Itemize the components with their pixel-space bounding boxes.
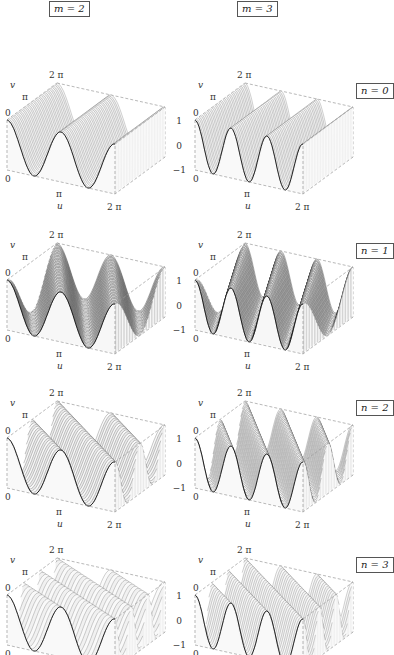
u-tick-0: 0: [193, 492, 199, 502]
z-tick-neg1: −1: [173, 483, 186, 493]
u-tick-0: 0: [193, 334, 199, 344]
surface-plot-n1-m3: 10−10π2 πv0π2 πu: [188, 190, 358, 340]
surface-plot-n3-m3: 10−10π2 πv0π2 πu: [188, 505, 358, 655]
surface-mesh: [195, 243, 353, 354]
v-tick-pi: π: [22, 92, 28, 102]
v-tick-0: 0: [5, 268, 11, 278]
v-tick-0: 0: [193, 108, 199, 118]
surface-plot-n0-m2: 10−10π2 πv0π2 πu: [0, 30, 170, 180]
v-axis-label: v: [198, 80, 203, 90]
column-label-m3: m = 3: [237, 1, 278, 17]
surface-mesh: [7, 243, 165, 354]
z-tick-1: 1: [176, 434, 182, 444]
surface-plot-n3-m2: 10−10π2 πv0π2 πu: [0, 505, 170, 655]
v-tick-pi: π: [22, 567, 28, 577]
v-tick-pi: π: [210, 252, 216, 262]
surface-mesh: [195, 83, 353, 194]
v-tick-2pi: 2 π: [237, 545, 252, 555]
v-tick-pi: π: [22, 252, 28, 262]
u-tick-0: 0: [5, 334, 11, 344]
surface-mesh: [195, 558, 353, 655]
z-tick-0: 0: [176, 141, 182, 151]
z-tick-1: 1: [176, 591, 182, 601]
u-tick-0: 0: [5, 649, 11, 655]
v-tick-2pi: 2 π: [49, 545, 64, 555]
surface-plot-n2-m3: 10−10π2 πv0π2 πu: [188, 348, 358, 498]
z-tick-0: 0: [176, 616, 182, 626]
v-tick-pi: π: [22, 410, 28, 420]
row-label-n3: n = 3: [356, 557, 394, 573]
v-axis-label: v: [10, 240, 15, 250]
z-tick-0: 0: [176, 301, 182, 311]
v-axis-label: v: [198, 555, 203, 565]
z-tick-neg1: −1: [173, 640, 186, 650]
row-label-n0: n = 0: [356, 83, 394, 99]
v-tick-2pi: 2 π: [237, 230, 252, 240]
v-tick-2pi: 2 π: [49, 70, 64, 80]
u-tick-0: 0: [193, 649, 199, 655]
v-axis-label: v: [198, 240, 203, 250]
surface-mesh: [195, 401, 353, 512]
v-tick-pi: π: [210, 92, 216, 102]
v-tick-2pi: 2 π: [237, 388, 252, 398]
v-tick-0: 0: [193, 426, 199, 436]
v-axis-label: v: [10, 555, 15, 565]
v-tick-2pi: 2 π: [49, 388, 64, 398]
v-axis-label: v: [10, 398, 15, 408]
z-tick-0: 0: [176, 459, 182, 469]
v-tick-2pi: 2 π: [49, 230, 64, 240]
z-tick-1: 1: [176, 116, 182, 126]
surface-plot-n2-m2: 10−10π2 πv0π2 πu: [0, 348, 170, 498]
v-tick-0: 0: [193, 583, 199, 593]
u-tick-0: 0: [5, 174, 11, 184]
v-tick-2pi: 2 π: [237, 70, 252, 80]
z-tick-neg1: −1: [173, 325, 186, 335]
v-tick-0: 0: [193, 268, 199, 278]
surface-mesh: [7, 558, 165, 655]
u-tick-0: 0: [5, 492, 11, 502]
row-label-n1: n = 1: [356, 243, 394, 259]
surface-mesh: [7, 401, 165, 512]
z-tick-1: 1: [176, 276, 182, 286]
v-axis-label: v: [198, 398, 203, 408]
v-tick-0: 0: [5, 108, 11, 118]
surface-mesh: [7, 83, 165, 194]
v-axis-label: v: [10, 80, 15, 90]
column-label-m2: m = 2: [49, 1, 90, 17]
v-tick-0: 0: [5, 426, 11, 436]
z-tick-neg1: −1: [173, 165, 186, 175]
u-tick-0: 0: [193, 174, 199, 184]
row-label-n2: n = 2: [356, 400, 394, 416]
v-tick-pi: π: [210, 410, 216, 420]
v-tick-pi: π: [210, 567, 216, 577]
surface-plot-n1-m2: 10−10π2 πv0π2 πu: [0, 190, 170, 340]
v-tick-0: 0: [5, 583, 11, 593]
surface-plot-n0-m3: 10−10π2 πv0π2 πu: [188, 30, 358, 180]
